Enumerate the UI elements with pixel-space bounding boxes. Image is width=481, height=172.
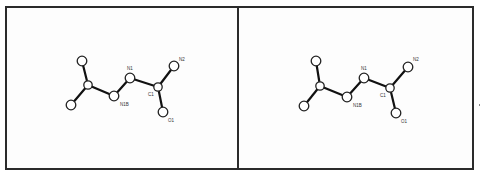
atom-n1b <box>342 92 352 102</box>
atom-label-n1: N1 <box>127 66 133 71</box>
atom-label-o1: O1 <box>401 119 408 124</box>
atom-c1 <box>386 84 394 92</box>
atom-c1 <box>154 83 162 91</box>
left-panel-molecule: N1BN1C1N2O1 <box>66 56 185 123</box>
atom-n2 <box>403 62 413 72</box>
atom-label-c1: C1 <box>148 92 154 97</box>
atom-n1 <box>359 73 369 83</box>
atom-label-n2: N2 <box>413 57 419 62</box>
atom-a3 <box>299 101 309 111</box>
atom-a2 <box>84 81 92 89</box>
atom-a3 <box>66 100 76 110</box>
atom-a1 <box>77 56 87 66</box>
atom-label-n1: N1 <box>361 66 367 71</box>
atom-label-n2: N2 <box>179 57 185 62</box>
atom-n1b <box>109 91 119 101</box>
atom-a2 <box>316 82 324 90</box>
atom-n2 <box>169 61 179 71</box>
atom-o1 <box>158 107 168 117</box>
right-panel-molecule: N1BN1C1N2O1 <box>299 56 419 124</box>
stereo-diagram: N1BN1C1N2O1 N1BN1C1N2O1 <box>0 0 481 172</box>
atom-a1 <box>311 56 321 66</box>
atom-n1 <box>125 73 135 83</box>
atom-label-n1b: N1B <box>120 102 129 107</box>
atom-label-o1: O1 <box>168 118 175 123</box>
atom-label-n1b: N1B <box>353 103 362 108</box>
atom-label-c1: C1 <box>380 93 386 98</box>
atom-o1 <box>391 108 401 118</box>
